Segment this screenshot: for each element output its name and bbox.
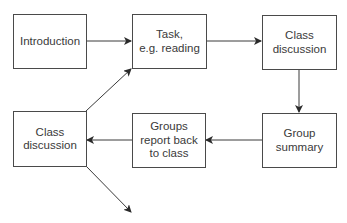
node-label: Task, e.g. reading [139, 28, 200, 55]
node-class-discussion-top: Class discussion [262, 15, 337, 70]
node-label: Groups report back to class [140, 120, 198, 161]
node-class-discussion-bottom: Class discussion [13, 111, 87, 167]
node-label: Class discussion [23, 126, 77, 153]
node-label: Introduction [20, 35, 80, 49]
node-introduction: Introduction [13, 14, 87, 69]
node-group-summary: Group summary [262, 113, 337, 168]
node-task: Task, e.g. reading [132, 14, 207, 69]
node-groups-report-back: Groups report back to class [132, 113, 206, 168]
node-label: Group summary [276, 127, 323, 154]
arrow-class2-to-task [86, 69, 131, 111]
node-label: Class discussion [273, 29, 327, 56]
arrow-class2-onward [86, 166, 131, 212]
